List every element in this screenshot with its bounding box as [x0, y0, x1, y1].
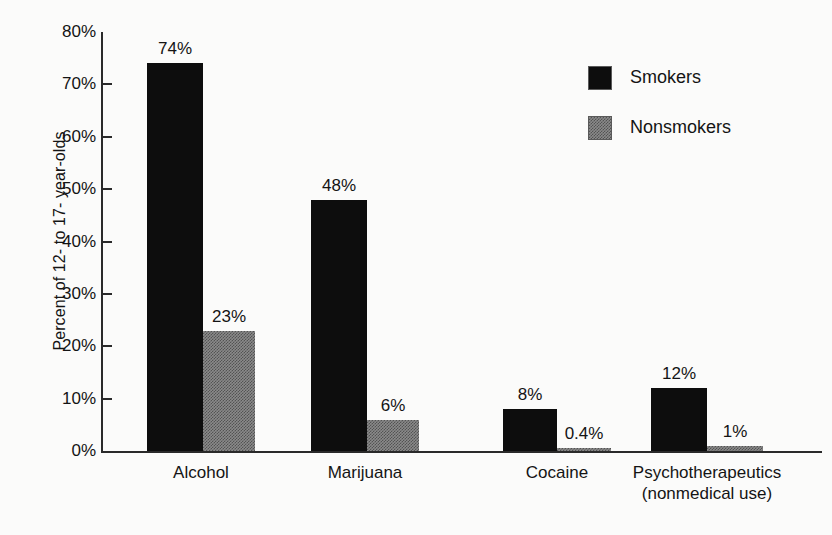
x-axis-label-cocaine: Cocaine	[526, 462, 588, 483]
bar-nonsmokers-psychotherapeutics	[707, 446, 763, 451]
bar-smokers-marijuana	[311, 200, 367, 451]
bar-value-smokers-alcohol: 74%	[158, 39, 192, 59]
x-axis-label-alcohol: Alcohol	[173, 462, 229, 483]
y-axis-tick-label: 70%	[12, 74, 96, 94]
legend-swatch-nonsmokers-icon	[588, 116, 612, 140]
bar-nonsmokers-cocaine	[557, 448, 611, 451]
bar-value-nonsmokers-cocaine: 0.4%	[565, 424, 604, 444]
legend-label-smokers: Smokers	[630, 67, 701, 88]
bar-smokers-alcohol	[147, 63, 203, 451]
bar-smokers-psychotherapeutics	[651, 388, 707, 451]
bar-value-nonsmokers-marijuana: 6%	[381, 396, 406, 416]
legend-label-nonsmokers: Nonsmokers	[630, 117, 731, 138]
x-axis-label-psychotherapeutics: Psychotherapeutics(nonmedical use)	[633, 462, 781, 505]
bar-value-nonsmokers-psychotherapeutics: 1%	[723, 422, 748, 442]
y-axis-tick-label: 80%	[12, 22, 96, 42]
bar-value-nonsmokers-alcohol: 23%	[212, 307, 246, 327]
y-axis-tick-label: 40%	[12, 232, 96, 252]
bar-value-smokers-psychotherapeutics: 12%	[662, 364, 696, 384]
plot-area: 74%23%48%6%8%0.4%12%1%	[103, 32, 822, 451]
y-axis-tick-label: 10%	[12, 389, 96, 409]
bar-nonsmokers-alcohol	[203, 331, 255, 451]
bar-nonsmokers-marijuana	[367, 420, 419, 451]
bar-value-smokers-marijuana: 48%	[322, 176, 356, 196]
bar-smokers-cocaine	[503, 409, 557, 451]
y-axis-tick-label: 0%	[12, 441, 96, 461]
bar-chart: Percent of 12- to 17- year-olds 0%10%20%…	[0, 0, 832, 535]
y-axis-tick-label: 20%	[12, 336, 96, 356]
y-axis-tick-label: 30%	[12, 284, 96, 304]
x-axis-line	[101, 451, 822, 453]
legend-swatch-smokers-icon	[588, 66, 612, 90]
x-axis-label-marijuana: Marijuana	[328, 462, 403, 483]
y-axis-tick-label: 60%	[12, 127, 96, 147]
bar-value-smokers-cocaine: 8%	[518, 385, 543, 405]
y-axis-tick-label: 50%	[12, 179, 96, 199]
